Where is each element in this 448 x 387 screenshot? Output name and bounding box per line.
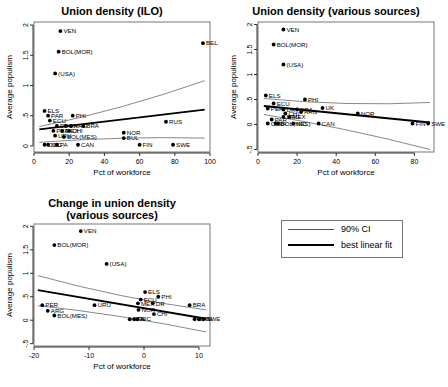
data-point-label: DR bbox=[156, 300, 165, 307]
y-tick-label: 1.5 bbox=[246, 45, 253, 55]
data-point bbox=[266, 107, 270, 111]
data-point-label: BOL(MES) bbox=[67, 133, 97, 140]
y-tick-label: .5 bbox=[246, 96, 253, 102]
panel-1-title-line1: Union density (ILO) bbox=[0, 5, 224, 17]
data-point-label: CHI bbox=[157, 310, 168, 317]
panel-3-plot: -20-10010Pct of workforce-.50.511.52Aver… bbox=[0, 194, 224, 387]
panel-3-title: Change in union density (various sources… bbox=[0, 197, 224, 221]
data-point bbox=[287, 115, 291, 119]
data-point bbox=[105, 262, 109, 266]
data-point bbox=[164, 120, 168, 124]
data-point bbox=[137, 308, 141, 312]
x-tick-label: 40 bbox=[332, 158, 340, 165]
panel-change-union-density: Change in union density (various sources… bbox=[0, 194, 224, 387]
data-point-label: NOR bbox=[142, 306, 156, 313]
data-point-label: VEN bbox=[84, 227, 97, 234]
y-tick-label: 2 bbox=[246, 22, 253, 26]
data-point bbox=[122, 136, 126, 140]
data-point bbox=[266, 122, 270, 126]
panel-2-title: Union density (various sources) bbox=[224, 5, 448, 17]
data-point bbox=[151, 301, 155, 305]
x-tick-label: 0 bbox=[32, 158, 36, 165]
data-point bbox=[76, 143, 80, 147]
y-tick-label: 0 bbox=[22, 318, 29, 322]
y-tick-label: 2 bbox=[22, 23, 29, 27]
data-point bbox=[52, 243, 56, 247]
data-point-label: VEN bbox=[63, 27, 76, 34]
data-point bbox=[138, 143, 142, 147]
data-point-label: BRA bbox=[86, 122, 100, 129]
fit-line-swatch bbox=[288, 244, 334, 246]
data-point bbox=[52, 314, 56, 318]
data-point-label: BRA bbox=[193, 301, 207, 308]
data-point-label: FIN bbox=[415, 120, 425, 127]
data-point-label: VEN bbox=[286, 26, 299, 33]
y-tick-label: .5 bbox=[22, 113, 29, 119]
x-tick-label: 20 bbox=[293, 158, 301, 165]
data-point bbox=[122, 131, 126, 135]
data-point bbox=[201, 41, 205, 45]
y-tick-label: 1.5 bbox=[22, 50, 29, 60]
data-point-label: SWE bbox=[431, 120, 445, 127]
data-point-label: BOL(MOR) bbox=[277, 41, 308, 48]
data-point-label: (USA) bbox=[286, 61, 303, 68]
x-tick-label: 80 bbox=[411, 158, 419, 165]
legend: 90% CI best linear fit bbox=[281, 220, 403, 258]
data-point bbox=[193, 317, 197, 321]
y-axis-label: Average populism bbox=[229, 55, 238, 119]
panel-1-plot: 020406080100Pct of workforce0.511.52Aver… bbox=[0, 0, 224, 193]
data-point bbox=[40, 303, 44, 307]
data-point bbox=[46, 114, 50, 118]
data-point bbox=[317, 122, 321, 126]
x-axis-label: Pct of workforce bbox=[93, 168, 151, 177]
data-point bbox=[128, 317, 132, 321]
data-point-label: CAN bbox=[322, 120, 335, 127]
data-point bbox=[71, 114, 75, 118]
data-point-label: ELS bbox=[269, 92, 281, 99]
data-point bbox=[62, 135, 66, 139]
y-tick-label: 1 bbox=[246, 72, 253, 76]
data-point-label: (USA) bbox=[110, 260, 127, 267]
x-tick-label: 20 bbox=[65, 158, 73, 165]
data-point-label: NIC bbox=[140, 315, 151, 322]
data-point-label: ARG bbox=[304, 108, 318, 115]
data-point bbox=[321, 106, 325, 110]
data-point-label: PHI bbox=[76, 112, 87, 119]
x-tick-label: 80 bbox=[171, 158, 179, 165]
data-point bbox=[264, 94, 268, 98]
panel-union-density-ilo: Union density (ILO) 020406080100Pct of w… bbox=[0, 0, 224, 193]
x-tick-label: -10 bbox=[84, 352, 94, 359]
data-point-label: BOL(MES) bbox=[57, 312, 87, 319]
x-tick-label: 0 bbox=[256, 158, 260, 165]
x-tick-label: 100 bbox=[204, 158, 216, 165]
x-tick-label: 10 bbox=[195, 352, 203, 359]
panel-3-title-line1: Change in union density bbox=[0, 197, 224, 209]
y-tick-label: -.5 bbox=[246, 145, 253, 153]
x-tick-label: 60 bbox=[136, 158, 144, 165]
y-axis-label: Average populism bbox=[5, 55, 14, 119]
x-tick-label: 60 bbox=[371, 158, 379, 165]
data-point bbox=[202, 317, 206, 321]
data-point bbox=[156, 295, 160, 299]
data-point bbox=[93, 303, 97, 307]
data-point-label: PA bbox=[60, 141, 69, 148]
data-point bbox=[53, 134, 57, 138]
panel-3-title-line2: (various sources) bbox=[0, 209, 224, 221]
x-tick-label: 40 bbox=[101, 158, 109, 165]
y-axis-label: Average populism bbox=[5, 253, 14, 317]
y-tick-label: .5 bbox=[22, 294, 29, 300]
data-point bbox=[132, 317, 136, 321]
data-point bbox=[59, 29, 63, 33]
ci-line-swatch bbox=[288, 229, 334, 230]
x-axis-label: Pct of workforce bbox=[317, 168, 375, 177]
data-point bbox=[272, 43, 276, 47]
data-point bbox=[274, 122, 278, 126]
panel-2-title-line1: Union density (various sources) bbox=[224, 5, 448, 17]
data-point bbox=[143, 290, 147, 294]
data-point-label: SWE bbox=[206, 315, 220, 322]
data-point bbox=[152, 312, 156, 316]
data-point-label: RUS bbox=[169, 118, 182, 125]
data-point bbox=[171, 143, 175, 147]
data-point bbox=[303, 98, 307, 102]
data-point-label: URU bbox=[98, 301, 111, 308]
